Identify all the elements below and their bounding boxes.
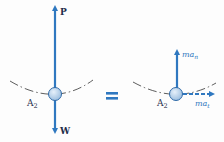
particle-ball-left xyxy=(49,88,62,101)
diagram-canvas: P W A2 man mat A2 xyxy=(0,0,224,142)
free-body-diagram: P W A2 man mat A2 xyxy=(0,0,224,142)
particle-ball-right xyxy=(170,88,183,101)
label-a2-left: A2 xyxy=(26,98,38,110)
left-figure: P W A2 xyxy=(10,7,93,136)
label-ma-n: man xyxy=(182,50,198,60)
label-w: W xyxy=(59,126,71,136)
label-ma-t: mat xyxy=(195,99,210,109)
equals-sign xyxy=(106,92,118,100)
label-a2-right: A2 xyxy=(156,98,168,110)
right-figure: man mat A2 xyxy=(133,50,216,110)
label-p: P xyxy=(60,7,67,17)
